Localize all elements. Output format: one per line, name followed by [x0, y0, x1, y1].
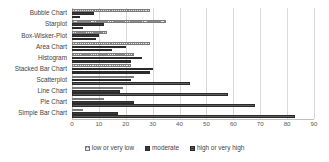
legend-label: low or very low [92, 145, 134, 151]
bar-1[interactable] [72, 23, 104, 26]
bar-group [72, 108, 314, 119]
x-axis-tick-label: 10 [95, 121, 102, 127]
x-axis-tick-label: 90 [311, 121, 318, 127]
plot-wrapper: Bubble ChartStarplotBox-Wisker-PlotArea … [0, 0, 329, 141]
x-axis-tick-label: 50 [203, 121, 210, 127]
x-axis-line [72, 119, 314, 120]
x-axis-tick-label: 80 [284, 121, 291, 127]
x-axis-tick-label: 70 [257, 121, 264, 127]
bar-0[interactable] [72, 42, 150, 45]
y-axis-category-label: Simple Bar Chart [0, 108, 70, 119]
bar-0[interactable] [72, 31, 107, 34]
y-axis-category-label: Line Chart [0, 86, 70, 97]
bar-0[interactable] [72, 64, 131, 67]
bar-2[interactable] [72, 38, 96, 41]
bar-group [72, 8, 314, 19]
x-axis-tick-label: 30 [149, 121, 156, 127]
bar-2[interactable] [72, 93, 228, 96]
bar-group [72, 63, 314, 74]
legend-label: high or very high [197, 145, 244, 151]
bar-0[interactable] [72, 109, 83, 112]
bar-1[interactable] [72, 57, 142, 60]
bar-2[interactable] [72, 49, 112, 52]
bar-group [72, 97, 314, 108]
y-axis-category-label: Starplot [0, 19, 70, 30]
bar-0[interactable] [72, 76, 134, 79]
bar-2[interactable] [72, 71, 150, 74]
gridline [314, 8, 315, 119]
bar-0[interactable] [72, 53, 134, 56]
bar-group [72, 86, 314, 97]
bar-1[interactable] [72, 68, 153, 71]
grouped-bar-chart: Bubble ChartStarplotBox-Wisker-PlotArea … [0, 0, 329, 162]
legend-item[interactable]: moderate [145, 145, 179, 151]
y-axis-category-label: Bubble Chart [0, 8, 70, 19]
bar-1[interactable] [72, 79, 131, 82]
legend-label: moderate [152, 145, 179, 151]
legend-item[interactable]: low or very low [85, 145, 134, 151]
bar-2[interactable] [72, 16, 80, 19]
bar-groups [72, 8, 314, 119]
bar-0[interactable] [72, 20, 166, 23]
legend-swatch-icon [85, 146, 90, 151]
chart-legend: low or very lowmoderatehigh or very high [0, 145, 329, 151]
bar-1[interactable] [72, 112, 118, 115]
bar-2[interactable] [72, 115, 295, 118]
x-axis-tick-labels: 0102030405060708090 [72, 121, 314, 133]
bar-0[interactable] [72, 87, 123, 90]
bar-0[interactable] [72, 9, 150, 12]
bar-group [72, 41, 314, 52]
plot-area [72, 8, 314, 119]
bar-2[interactable] [72, 27, 83, 30]
bar-1[interactable] [72, 101, 134, 104]
legend-item[interactable]: high or very high [190, 145, 244, 151]
y-axis-category-label: Histogram [0, 52, 70, 63]
bar-0[interactable] [72, 98, 104, 101]
y-axis-category-label: Area Chart [0, 41, 70, 52]
x-axis-tick-label: 20 [122, 121, 129, 127]
x-axis-tick-label: 40 [176, 121, 183, 127]
bar-2[interactable] [72, 104, 255, 107]
y-axis-category-label: Pie Chart [0, 97, 70, 108]
y-axis-category-label: Stacked Bar Chart [0, 63, 70, 74]
legend-swatch-icon [190, 146, 195, 151]
x-axis-tick-label: 60 [230, 121, 237, 127]
y-axis-category-labels: Bubble ChartStarplotBox-Wisker-PlotArea … [0, 8, 70, 119]
bar-1[interactable] [72, 12, 94, 15]
bar-1[interactable] [72, 46, 126, 49]
bar-2[interactable] [72, 82, 190, 85]
x-axis-tick-label: 0 [70, 121, 73, 127]
bar-group [72, 30, 314, 41]
bar-group [72, 75, 314, 86]
y-axis-category-label: Box-Wisker-Plot [0, 30, 70, 41]
legend-swatch-icon [145, 146, 150, 151]
y-axis-category-label: Scatterplot [0, 75, 70, 86]
bar-1[interactable] [72, 34, 99, 37]
bar-2[interactable] [72, 60, 131, 63]
bar-1[interactable] [72, 90, 120, 93]
bar-group [72, 52, 314, 63]
bar-group [72, 19, 314, 30]
